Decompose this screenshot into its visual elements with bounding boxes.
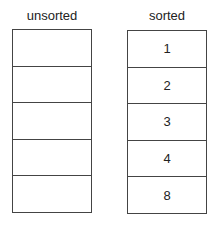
sorted-array: 1 2 3 4 8 [127, 30, 207, 214]
sorted-cell: 3 [128, 104, 206, 141]
unsorted-cell [13, 103, 91, 140]
unsorted-cell [13, 30, 91, 67]
sorted-cell: 4 [128, 141, 206, 178]
unsorted-label: unsorted [12, 8, 92, 23]
sorted-cell: 2 [128, 68, 206, 105]
unsorted-cell [13, 140, 91, 177]
sorted-label: sorted [127, 8, 207, 23]
sorted-cell: 8 [128, 177, 206, 214]
unsorted-array [12, 29, 92, 213]
sorted-cell: 1 [128, 31, 206, 68]
unsorted-cell [13, 67, 91, 104]
unsorted-cell [13, 176, 91, 213]
